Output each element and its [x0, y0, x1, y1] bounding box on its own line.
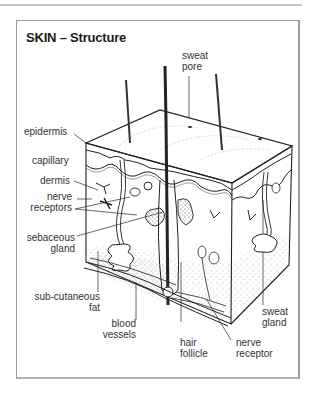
label-line: blood	[96, 318, 136, 329]
label-line: receptors	[20, 202, 72, 213]
label-line: gland	[262, 317, 288, 328]
label-blood-vessels: blood vessels	[96, 318, 136, 340]
label-dermis: dermis	[40, 175, 70, 186]
label-line: nerve	[20, 191, 72, 202]
label-subcutaneous-fat: sub-cutaneous fat	[24, 291, 100, 313]
label-hair-follicle: hair follicle	[180, 337, 208, 359]
label-line: fat	[24, 302, 100, 313]
label-line: sweat	[262, 306, 288, 317]
label-line: follicle	[180, 348, 208, 359]
label-line: vessels	[96, 329, 136, 340]
label-line: receptor	[236, 348, 273, 359]
skin-block	[84, 66, 292, 326]
label-line: hair	[180, 337, 208, 348]
label-sebaceous-gland: sebaceous gland	[20, 232, 75, 254]
label-line: nerve	[236, 337, 273, 348]
label-line: sweat	[182, 50, 208, 61]
label-nerve-receptor: nerve receptor	[236, 337, 273, 359]
label-line: gland	[20, 243, 75, 254]
label-nerve-receptors: nerve receptors	[20, 191, 72, 213]
label-sweat-gland: sweat gland	[262, 306, 288, 328]
label-sweat-pore: sweat pore	[182, 50, 208, 72]
label-line: pore	[182, 61, 208, 72]
label-line: sub-cutaneous	[24, 291, 100, 302]
label-line: sebaceous	[20, 232, 75, 243]
label-capillary: capillary	[32, 155, 69, 166]
label-epidermis: epidermis	[24, 126, 67, 137]
